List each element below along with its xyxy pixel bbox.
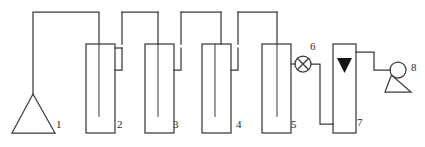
adsorber-column-7-body — [333, 44, 356, 133]
gas-source-triangle — [12, 94, 55, 133]
absorber-vessel-2-body — [86, 44, 115, 133]
component-label-5: 5 — [291, 118, 297, 130]
absorber-vessel-4-outlet-elbow — [231, 48, 238, 70]
pipe-valve-to-column-7 — [311, 64, 333, 124]
component-label-7: 7 — [357, 116, 363, 128]
figure-root: 1 2 3 4 5 6 7 8 — [0, 0, 425, 147]
absorber-vessel-3-outlet-elbow — [174, 48, 181, 70]
absorber-vessel-3-body — [145, 44, 174, 133]
absorber-vessel-4-body — [202, 44, 231, 133]
component-label-1: 1 — [56, 118, 62, 130]
component-label-3: 3 — [173, 118, 179, 130]
adsorber-column-7-flow-triangle — [337, 58, 352, 73]
component-label-8: 8 — [411, 61, 417, 73]
component-label-6: 6 — [310, 40, 316, 52]
pipe-column-7-to-pump-8 — [356, 52, 390, 70]
component-label-4: 4 — [236, 118, 242, 130]
absorber-vessel-2-outlet-elbow — [115, 48, 122, 70]
process-flow-diagram: 1 2 3 4 5 6 7 8 — [0, 0, 425, 147]
component-label-2: 2 — [117, 118, 123, 130]
pipe-source-to-vessel-2 — [33, 12, 99, 94]
